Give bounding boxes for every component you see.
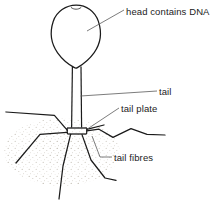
phage-tail — [72, 67, 82, 128]
label-head-contains-dna: head contains DNA — [126, 6, 210, 17]
phage-drawing — [0, 0, 218, 216]
label-tail-fibres: tail fibres — [114, 152, 153, 163]
bacteriophage-figure: head contains DNA tail tail plate tail f… — [0, 0, 218, 216]
label-tail-plate: tail plate — [121, 103, 157, 114]
label-tail: tail — [159, 86, 172, 97]
leader-line-tail — [81, 91, 158, 96]
leader-line-head — [87, 10, 124, 31]
phage-head — [51, 5, 100, 68]
